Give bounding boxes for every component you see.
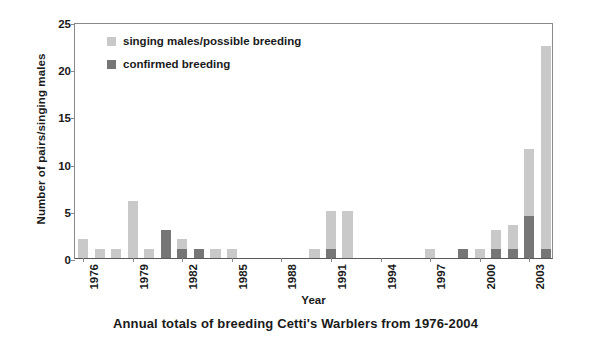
bar-slot[interactable]: [508, 24, 518, 258]
x-tick-label: 1982: [187, 264, 199, 290]
x-tick-mark: [430, 258, 431, 262]
y-tick-label: 25: [58, 18, 71, 30]
bar-segment-singing[interactable]: [309, 249, 319, 258]
legend-label: singing males/possible breeding: [123, 35, 301, 47]
bar-segment-singing[interactable]: [128, 201, 138, 258]
x-tick-mark: [331, 258, 332, 262]
bar-segment-singing[interactable]: [177, 239, 187, 248]
bar-stack[interactable]: [491, 230, 501, 258]
bar-stack[interactable]: [161, 230, 171, 258]
x-tick-label: 1994: [386, 264, 398, 290]
bar-segment-confirmed[interactable]: [508, 249, 518, 258]
bar-stack[interactable]: [95, 249, 105, 258]
bar-stack[interactable]: [541, 46, 551, 258]
bar-stack[interactable]: [144, 249, 154, 258]
bar-stack[interactable]: [458, 249, 468, 258]
bar-segment-singing[interactable]: [491, 230, 501, 249]
bar-segment-singing[interactable]: [111, 249, 121, 258]
y-tick-label: 10: [58, 160, 71, 172]
x-tick-label: 1985: [237, 264, 249, 290]
bar-slot[interactable]: [425, 24, 435, 258]
bar-stack[interactable]: [78, 239, 88, 258]
bar-segment-singing[interactable]: [95, 249, 105, 258]
bar-slot[interactable]: [375, 24, 385, 258]
x-tick-mark: [83, 258, 84, 262]
x-tick-mark: [529, 258, 530, 262]
x-tick-mark: [281, 258, 282, 262]
y-axis-title: Number of pairs/singing males: [35, 24, 47, 254]
bar-slot[interactable]: [541, 24, 551, 258]
bar-slot[interactable]: [359, 24, 369, 258]
x-tick-label: 1988: [286, 264, 298, 290]
bar-slot[interactable]: [491, 24, 501, 258]
x-tick-label: 1976: [88, 264, 100, 290]
bar-segment-confirmed[interactable]: [194, 249, 204, 258]
bar-stack[interactable]: [425, 249, 435, 258]
bar-segment-singing[interactable]: [210, 249, 220, 258]
bar-slot[interactable]: [309, 24, 319, 258]
x-axis-title: Year: [74, 294, 553, 306]
bar-segment-singing[interactable]: [508, 225, 518, 249]
bar-stack[interactable]: [326, 211, 336, 258]
x-tick-mark: [182, 258, 183, 262]
bar-segment-singing[interactable]: [78, 239, 88, 258]
bar-slot[interactable]: [95, 24, 105, 258]
bar-stack[interactable]: [342, 211, 352, 258]
bar-segment-confirmed[interactable]: [541, 249, 551, 258]
bar-segment-confirmed[interactable]: [161, 230, 171, 258]
legend-item-confirmed[interactable]: confirmed breeding: [107, 58, 301, 70]
bar-slot[interactable]: [442, 24, 452, 258]
bar-slot[interactable]: [326, 24, 336, 258]
bar-segment-singing[interactable]: [227, 249, 237, 258]
chart-legend: singing males/possible breedingconfirmed…: [107, 35, 301, 70]
bar-segment-singing[interactable]: [475, 249, 485, 258]
bar-stack[interactable]: [309, 249, 319, 258]
bar-segment-confirmed[interactable]: [177, 249, 187, 258]
bar-stack[interactable]: [227, 249, 237, 258]
x-tick-mark: [480, 258, 481, 262]
bar-stack[interactable]: [508, 225, 518, 258]
bar-slot[interactable]: [475, 24, 485, 258]
bar-slot[interactable]: [78, 24, 88, 258]
bar-segment-singing[interactable]: [342, 211, 352, 258]
bar-stack[interactable]: [128, 201, 138, 258]
chart-figure: Number of pairs/singing males 0510152025…: [0, 0, 591, 347]
legend-item-singing[interactable]: singing males/possible breeding: [107, 35, 301, 47]
x-tick-label: 2003: [534, 264, 546, 290]
bar-stack[interactable]: [177, 239, 187, 258]
legend-label: confirmed breeding: [123, 58, 230, 70]
y-tick-mark: [71, 260, 75, 261]
bar-stack[interactable]: [524, 149, 534, 258]
y-tick-label: 0: [65, 254, 71, 266]
x-tick-label: 1997: [435, 264, 447, 290]
bar-segment-singing[interactable]: [541, 46, 551, 249]
bar-slot[interactable]: [342, 24, 352, 258]
y-tick-label: 15: [58, 112, 71, 124]
x-tick-label: 2000: [485, 264, 497, 290]
legend-swatch-icon: [107, 37, 116, 46]
legend-swatch-icon: [107, 60, 116, 69]
bar-segment-confirmed[interactable]: [326, 249, 336, 258]
bar-stack[interactable]: [210, 249, 220, 258]
y-tick-label: 5: [65, 207, 71, 219]
bar-slot[interactable]: [458, 24, 468, 258]
bar-slot[interactable]: [408, 24, 418, 258]
bar-segment-confirmed[interactable]: [524, 216, 534, 258]
bar-segment-confirmed[interactable]: [458, 249, 468, 258]
bar-segment-confirmed[interactable]: [491, 249, 501, 258]
bar-slot[interactable]: [392, 24, 402, 258]
x-tick-label: 1979: [138, 264, 150, 290]
x-tick-mark: [381, 258, 382, 262]
y-tick-label: 20: [58, 65, 71, 77]
bar-slot[interactable]: [524, 24, 534, 258]
bar-segment-singing[interactable]: [425, 249, 435, 258]
bar-stack[interactable]: [111, 249, 121, 258]
bar-stack[interactable]: [475, 249, 485, 258]
x-tick-mark: [133, 258, 134, 262]
bar-segment-singing[interactable]: [144, 249, 154, 258]
bar-segment-singing[interactable]: [326, 211, 336, 249]
chart-caption: Annual totals of breeding Cetti's Warble…: [0, 316, 591, 331]
x-tick-mark: [232, 258, 233, 262]
bar-segment-singing[interactable]: [524, 149, 534, 215]
bar-stack[interactable]: [194, 249, 204, 258]
